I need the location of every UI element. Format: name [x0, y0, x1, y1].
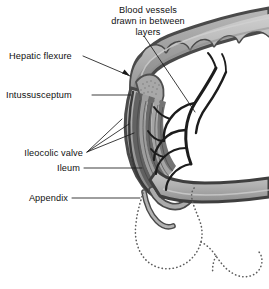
label-blood-vessels-line1: Blood vessels — [119, 5, 177, 15]
label-ileum: Ileum — [57, 163, 80, 173]
intussusception-diagram: Blood vessels drawn in between layers He… — [0, 0, 269, 289]
label-blood-vessels-line2: drawn in between — [111, 16, 185, 26]
label-blood-vessels-line3: layers — [135, 27, 160, 37]
label-hepatic-flexure: Hepatic flexure — [9, 51, 72, 61]
label-intussusceptum: Intussusceptum — [6, 90, 72, 100]
label-appendix: Appendix — [29, 193, 68, 203]
label-ileocolic-valve: Ileocolic valve — [24, 148, 83, 158]
